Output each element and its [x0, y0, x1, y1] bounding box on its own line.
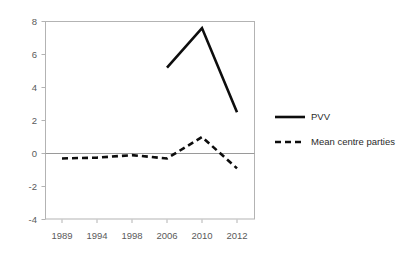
y-tick-label-6: 6: [32, 49, 37, 60]
y-tick-label-neg4: -4: [29, 214, 37, 225]
y-tick-label-0: 0: [32, 148, 37, 159]
chart-background: [0, 0, 418, 254]
line-chart: 8 6 4 2 0 -2 -4 1989 1994 1998 2006 2010…: [0, 0, 418, 254]
legend-label-mean-centre-parties: Mean centre parties: [311, 136, 395, 147]
x-tick-label-1998: 1998: [121, 230, 142, 241]
y-tick-label-neg2: -2: [29, 181, 37, 192]
x-tick-label-1989: 1989: [51, 230, 72, 241]
chart-container: 8 6 4 2 0 -2 -4 1989 1994 1998 2006 2010…: [0, 0, 418, 254]
x-tick-label-1994: 1994: [86, 230, 107, 241]
y-tick-label-2: 2: [32, 115, 37, 126]
x-tick-label-2010: 2010: [191, 230, 212, 241]
y-tick-label-8: 8: [32, 16, 37, 27]
x-tick-label-2006: 2006: [156, 230, 177, 241]
legend-label-pvv: PVV: [311, 111, 331, 122]
y-tick-label-4: 4: [32, 82, 37, 93]
x-tick-label-2012: 2012: [226, 230, 247, 241]
